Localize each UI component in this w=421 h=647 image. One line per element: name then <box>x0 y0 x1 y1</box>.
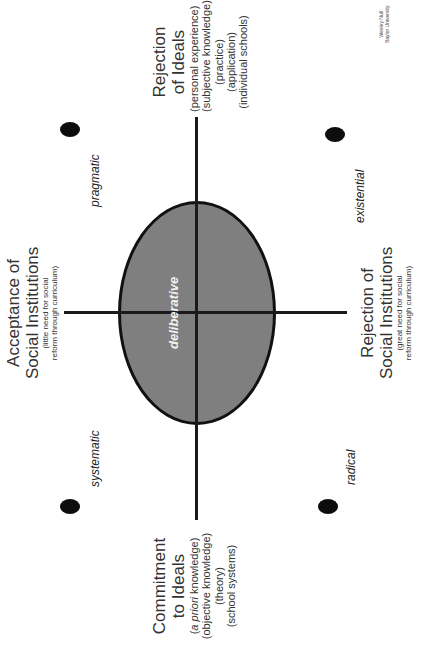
rejection-of-ideals-sub-5: (individual schools) <box>237 12 249 112</box>
commitment-to-ideals-sub-1: (a priori knowledge) <box>188 531 200 641</box>
credit: Wesley Null Baylor University <box>378 5 390 43</box>
ideals-axis <box>195 117 198 520</box>
rejection-of-ideals-sub-3: (practice) <box>213 12 225 112</box>
rejection-social-institutions-label: Rejection of Social Institutions (great … <box>358 247 414 379</box>
acceptance-title-2: Social Institutions <box>23 247 42 379</box>
rejection-of-ideals-label: Rejection of Ideals (personal experience… <box>150 12 250 112</box>
rejection-social-sub-2: reform through curriculum) <box>405 247 414 379</box>
a-priori-rest: knowledge) <box>188 538 200 597</box>
existential-dot <box>325 127 345 142</box>
commitment-to-ideals-title-1: Commitment <box>150 531 169 641</box>
a-priori-text: a priori <box>188 597 200 631</box>
existential-label: existential <box>353 170 367 223</box>
rejection-of-ideals-sub-2: (subjective knowledge) <box>200 12 212 112</box>
rejection-of-ideals-sub-1: (personal experience) <box>188 12 200 112</box>
commitment-to-ideals-title-2: to Ideals <box>169 531 188 641</box>
rejection-social-title-2: Social Institutions <box>377 247 396 379</box>
rejection-social-title-1: Rejection of <box>358 247 377 379</box>
commitment-to-ideals-label: Commitment to Ideals (a priori knowledge… <box>150 531 237 641</box>
acceptance-title-1: Acceptance of <box>4 247 23 379</box>
rejection-of-ideals-sub-4: (application) <box>225 12 237 112</box>
radical-dot <box>318 499 338 514</box>
acceptance-sub-2: reform through curriculum) <box>51 247 60 379</box>
credit-affiliation: Baylor University <box>384 5 390 43</box>
systematic-label: systematic <box>88 430 102 487</box>
radical-label: radical <box>344 450 358 485</box>
diagram-canvas: Wesley Null Baylor University deliberati… <box>0 0 421 647</box>
acceptance-social-institutions-label: Acceptance of Social Institutions (littl… <box>4 247 60 379</box>
systematic-dot <box>60 499 80 514</box>
social-institutions-axis <box>64 311 347 314</box>
commitment-to-ideals-sub-4: (school systems) <box>225 531 237 641</box>
center-label: deliberative <box>166 277 181 349</box>
rejection-of-ideals-title-2: of Ideals <box>169 12 188 112</box>
pragmatic-label: pragmatic <box>88 154 102 207</box>
rejection-of-ideals-title-1: Rejection <box>150 12 169 112</box>
commitment-to-ideals-sub-2: (objective knowledge) <box>200 531 212 641</box>
pragmatic-dot <box>60 122 80 137</box>
commitment-to-ideals-sub-3: (theory) <box>213 531 225 641</box>
